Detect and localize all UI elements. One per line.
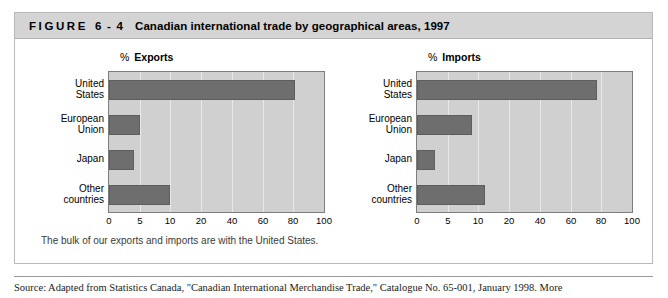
- x-tick-label: 60: [258, 215, 269, 226]
- x-tick-label: 80: [288, 215, 299, 226]
- figure-label-number: 6 - 4: [95, 20, 124, 32]
- category-label: UnitedStates: [41, 78, 104, 100]
- chart-exports: %Exports UnitedStatesEuropeanUnionJapanO…: [41, 39, 341, 229]
- x-tick-label: 40: [227, 215, 238, 226]
- x-tick-label: 0: [106, 215, 111, 226]
- figure-header-text: FIGURE 6 - 4 Canadian international trad…: [15, 20, 450, 32]
- bar-japan: [109, 150, 134, 170]
- bar-european-union: [417, 115, 472, 135]
- chart-exports-title: Exports: [134, 51, 173, 63]
- chart-exports-category-labels: UnitedStatesEuropeanUnionJapanOthercount…: [41, 71, 104, 213]
- category-label: Japan: [41, 153, 104, 164]
- bar-european-union: [109, 115, 140, 135]
- chart-exports-x-axis-labels: 051020406080100: [108, 215, 325, 229]
- category-label: EuropeanUnion: [41, 113, 104, 135]
- chart-exports-bars: [109, 72, 324, 212]
- chart-exports-unit: %: [120, 51, 129, 63]
- source-divider: [14, 276, 653, 277]
- bar-japan: [417, 150, 435, 170]
- bar-united-states: [417, 80, 597, 100]
- figure-container: FIGURE 6 - 4 Canadian international trad…: [14, 12, 653, 264]
- chart-exports-heading: %Exports: [120, 51, 173, 63]
- chart-imports-x-axis-labels: 051020406080100: [416, 215, 633, 229]
- figure-title: Canadian international trade by geograph…: [135, 20, 450, 32]
- bar-united-states: [109, 80, 295, 100]
- figure-header-bar: FIGURE 6 - 4 Canadian international trad…: [15, 13, 652, 39]
- x-tick-label: 10: [473, 215, 484, 226]
- x-tick-label: 5: [137, 215, 142, 226]
- chart-imports-unit: %: [428, 51, 437, 63]
- category-label: EuropeanUnion: [349, 113, 412, 135]
- figure-label-word: FIGURE: [29, 20, 88, 32]
- x-tick-label: 100: [316, 215, 332, 226]
- category-label: Othercountries: [41, 183, 104, 205]
- chart-imports-heading: %Imports: [428, 51, 481, 63]
- chart-exports-plot-area: [108, 71, 325, 213]
- x-tick-label: 20: [504, 215, 515, 226]
- source-note: Source: Adapted from Statistics Canada, …: [14, 282, 562, 293]
- chart-imports-title: Imports: [442, 51, 481, 63]
- bar-other-countries: [417, 185, 485, 205]
- charts-row: %Exports UnitedStatesEuropeanUnionJapanO…: [15, 39, 652, 229]
- chart-imports-bars: [417, 72, 632, 212]
- bar-other-countries: [109, 185, 170, 205]
- x-tick-label: 20: [196, 215, 207, 226]
- category-label: Japan: [349, 153, 412, 164]
- x-tick-label: 0: [414, 215, 419, 226]
- chart-imports-plot-area: [416, 71, 633, 213]
- x-tick-label: 60: [566, 215, 577, 226]
- x-tick-label: 80: [596, 215, 607, 226]
- category-label: Othercountries: [349, 183, 412, 205]
- x-tick-label: 10: [165, 215, 176, 226]
- chart-imports-category-labels: UnitedStatesEuropeanUnionJapanOthercount…: [349, 71, 412, 213]
- category-label: UnitedStates: [349, 78, 412, 100]
- x-tick-label: 40: [535, 215, 546, 226]
- x-tick-label: 5: [445, 215, 450, 226]
- figure-caption: The bulk of our exports and imports are …: [41, 235, 318, 246]
- x-tick-label: 100: [624, 215, 640, 226]
- chart-imports: %Imports UnitedStatesEuropeanUnionJapanO…: [349, 39, 649, 229]
